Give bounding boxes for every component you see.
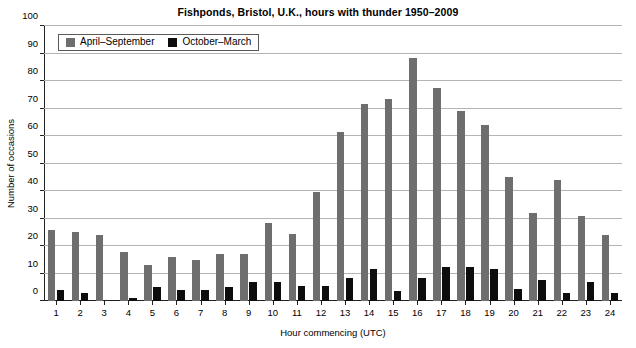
- bar-group-hour-9: [237, 26, 261, 301]
- y-tick-label-50: 50: [27, 147, 38, 158]
- x-tick-mark-4: [128, 301, 129, 305]
- x-tick-mark-17: [441, 301, 442, 305]
- legend-entry-series-b: October–March: [168, 37, 251, 47]
- bar-hour-17-april-september: [433, 88, 441, 301]
- x-tick-label-19: 19: [484, 307, 495, 318]
- x-tick-mark-6: [176, 301, 177, 305]
- x-tick-mark-22: [562, 301, 563, 305]
- bar-hour-4-october-march: [129, 298, 137, 301]
- x-tick-label-21: 21: [532, 307, 543, 318]
- bar-hour-6-october-march: [177, 290, 185, 301]
- y-tick-label-0: 0: [33, 285, 38, 296]
- bar-hour-11-april-september: [289, 234, 297, 301]
- x-tick-label-6: 6: [174, 307, 179, 318]
- plot-area: 0102030405060708090100 12345678910111213…: [44, 26, 622, 301]
- x-tick-label-3: 3: [102, 307, 107, 318]
- bar-group-hour-7: [189, 26, 213, 301]
- x-tick-label-1: 1: [53, 307, 58, 318]
- x-tick-mark-14: [369, 301, 370, 305]
- x-tick-label-11: 11: [292, 307, 302, 318]
- y-axis-title: Number of occasions: [4, 26, 18, 301]
- thunder-hours-bar-chart: Fishponds, Bristol, U.K., hours with thu…: [0, 0, 636, 348]
- x-tick-mark-18: [465, 301, 466, 305]
- bar-group-hour-2: [68, 26, 92, 301]
- x-tick-mark-19: [490, 301, 491, 305]
- bar-group-hour-3: [92, 26, 116, 301]
- y-tick-label-40: 40: [27, 175, 38, 186]
- x-tick-mark-23: [586, 301, 587, 305]
- bar-hour-15-october-march: [394, 291, 402, 301]
- x-tick-label-22: 22: [556, 307, 567, 318]
- x-tick-label-4: 4: [126, 307, 131, 318]
- bar-hour-10-april-september: [265, 223, 273, 301]
- x-tick-mark-13: [345, 301, 346, 305]
- x-tick-label-23: 23: [581, 307, 592, 318]
- bar-hour-15-april-september: [385, 99, 393, 301]
- x-tick-label-2: 2: [77, 307, 82, 318]
- x-tick-label-8: 8: [222, 307, 227, 318]
- bar-hour-12-april-september: [313, 192, 321, 301]
- bar-hour-21-april-september: [529, 213, 537, 301]
- legend-entry-series-a: April–September: [66, 37, 154, 47]
- x-tick-label-16: 16: [412, 307, 423, 318]
- bar-hour-5-october-march: [153, 287, 161, 301]
- bar-hour-20-october-march: [514, 289, 522, 301]
- bar-hour-18-october-march: [466, 267, 474, 301]
- bar-group-hour-13: [333, 26, 357, 301]
- bar-group-hour-20: [502, 26, 526, 301]
- bar-hour-18-april-september: [457, 111, 465, 301]
- bar-group-hour-15: [381, 26, 405, 301]
- x-tick-mark-3: [104, 301, 105, 305]
- bar-hour-16-october-march: [418, 278, 426, 301]
- y-tick-label-100: 100: [22, 10, 38, 21]
- x-tick-label-20: 20: [508, 307, 519, 318]
- bar-hour-10-october-march: [274, 282, 282, 301]
- x-tick-mark-16: [417, 301, 418, 305]
- x-tick-label-9: 9: [246, 307, 251, 318]
- y-tick-label-20: 20: [27, 230, 38, 241]
- bar-hour-8-october-march: [225, 287, 233, 301]
- bar-hour-14-october-march: [370, 269, 378, 301]
- bar-hour-2-october-march: [81, 293, 89, 301]
- x-tick-mark-24: [610, 301, 611, 305]
- x-tick-mark-2: [80, 301, 81, 305]
- bar-hour-11-october-march: [298, 286, 306, 301]
- bar-hour-22-october-march: [563, 293, 571, 301]
- bar-group-hour-21: [526, 26, 550, 301]
- bar-hour-20-april-september: [505, 177, 513, 301]
- x-tick-mark-10: [273, 301, 274, 305]
- y-tick-label-90: 90: [27, 37, 38, 48]
- bars-layer: [44, 26, 622, 301]
- bar-group-hour-19: [478, 26, 502, 301]
- bar-hour-21-october-march: [538, 280, 546, 301]
- bar-hour-7-april-september: [192, 260, 200, 301]
- bar-hour-14-april-september: [361, 104, 369, 301]
- bar-group-hour-5: [140, 26, 164, 301]
- x-tick-mark-21: [538, 301, 539, 305]
- bar-group-hour-17: [429, 26, 453, 301]
- x-tick-mark-5: [152, 301, 153, 305]
- y-axis-title-text: Number of occasions: [6, 119, 17, 208]
- x-tick-mark-20: [514, 301, 515, 305]
- bar-group-hour-16: [405, 26, 429, 301]
- bar-hour-16-april-september: [409, 58, 417, 301]
- bar-hour-5-april-september: [144, 265, 152, 301]
- x-tick-mark-7: [201, 301, 202, 305]
- chart-legend: April–September October–March: [58, 34, 259, 51]
- bar-group-hour-4: [116, 26, 140, 301]
- bar-hour-8-april-september: [216, 254, 224, 301]
- bar-hour-13-april-september: [337, 132, 345, 301]
- bar-hour-13-october-march: [346, 278, 354, 301]
- bar-hour-19-april-september: [481, 125, 489, 301]
- y-tick-label-30: 30: [27, 202, 38, 213]
- x-tick-mark-1: [56, 301, 57, 305]
- bar-group-hour-6: [164, 26, 188, 301]
- bar-group-hour-8: [213, 26, 237, 301]
- bar-group-hour-18: [453, 26, 477, 301]
- bar-hour-19-october-march: [490, 269, 498, 301]
- legend-swatch-april-september: [66, 38, 75, 47]
- bar-group-hour-1: [44, 26, 68, 301]
- bar-hour-3-april-september: [96, 235, 104, 301]
- x-tick-label-17: 17: [436, 307, 447, 318]
- bar-group-hour-24: [598, 26, 622, 301]
